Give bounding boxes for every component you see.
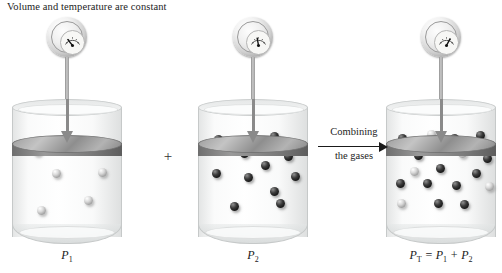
gas-panel-1: P1 [0, 0, 152, 273]
gas-molecule-dark [276, 199, 285, 208]
gauge-stem [251, 57, 255, 99]
beaker-base-ellipse [393, 226, 489, 239]
gas-molecule-dark [472, 169, 481, 178]
gas-molecule-light [397, 199, 406, 208]
gas-molecule-light [410, 167, 419, 176]
arrow-shaft [66, 99, 69, 135]
beaker-base-ellipse [205, 226, 301, 239]
gas-molecule-dark [396, 179, 405, 188]
gas-molecule-dark [436, 164, 445, 173]
gauge-dial-face [246, 30, 271, 55]
gas-molecule-dark [230, 202, 239, 211]
gas-molecule-dark [423, 179, 432, 188]
combining-label-line2: the gases [318, 150, 390, 161]
arrow-head [247, 131, 259, 143]
gas-molecule-dark [244, 173, 253, 182]
arrow-shaft [318, 146, 380, 147]
gas-molecule-light [98, 168, 107, 177]
gas-molecule-dark [460, 200, 469, 209]
label-plus: + P [447, 248, 468, 262]
gas-molecule-dark [261, 161, 270, 170]
pressure-arrow-icon [438, 99, 444, 147]
gas-molecule-dark [270, 187, 279, 196]
pressure-label: P2 [247, 248, 258, 264]
gauge-stem [439, 57, 443, 99]
gauge-dial-face [60, 30, 85, 55]
pressure-gauge [47, 17, 87, 57]
pressure-label: PT = P1 + P2 [409, 248, 472, 264]
gauge-bezel [237, 21, 269, 53]
arrow-shaft [252, 99, 255, 135]
gas-panel-2: P2 [168, 0, 338, 273]
pressure-gauge [421, 17, 461, 57]
label-equals: = P [422, 248, 443, 262]
label-subscript-3: 2 [469, 255, 473, 264]
beaker-base-ellipse [19, 226, 115, 239]
arrow-head [61, 131, 73, 143]
label-subscript: 1 [69, 255, 73, 264]
pressure-label: P1 [61, 248, 72, 264]
gas-molecule-dark [291, 172, 300, 181]
gas-molecule-light [84, 196, 93, 205]
gas-molecule-dark [434, 199, 443, 208]
gauge-stem [65, 57, 69, 99]
gas-molecule-dark [452, 181, 461, 190]
pressure-arrow-icon [250, 99, 256, 147]
gas-molecule-light [37, 206, 46, 215]
gas-molecule-light [485, 182, 494, 191]
gas-molecule-light [52, 169, 61, 178]
pressure-arrow-icon [64, 99, 70, 147]
arrow-shaft [440, 99, 443, 135]
arrow-head [435, 131, 447, 143]
gauge-dial-face [434, 30, 459, 55]
gauge-bezel [425, 21, 457, 53]
label-subscript: 2 [255, 255, 259, 264]
pressure-gauge [233, 17, 273, 57]
gas-molecule-dark [212, 169, 221, 178]
plus-operator: + [160, 148, 176, 164]
gauge-bezel [51, 21, 83, 53]
combining-arrow-group: Combining the gases [318, 126, 390, 170]
combining-label-line1: Combining [318, 126, 390, 137]
